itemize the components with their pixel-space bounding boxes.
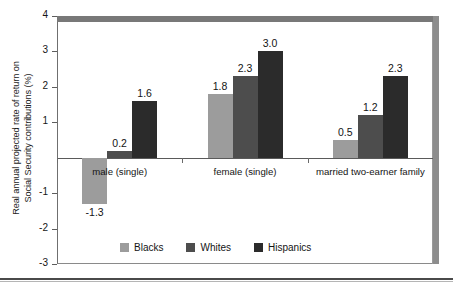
y-tick-mark — [52, 51, 57, 52]
y-axis-tick-4: 4 — [0, 16, 57, 17]
category-separator-tick — [308, 158, 309, 163]
bar-blacks-0 — [82, 158, 107, 204]
bar-value-label: 3.0 — [250, 37, 291, 49]
bar-value-label: 1.6 — [124, 87, 165, 99]
y-axis-tick--3: -3 — [0, 264, 57, 265]
plot-frame-right-edge — [432, 22, 433, 264]
zero-baseline — [57, 158, 433, 159]
bar-whites-0 — [107, 151, 132, 158]
y-tick-mark — [52, 264, 57, 265]
legend-label: Blacks — [134, 242, 163, 253]
y-axis-tick--1: -1 — [0, 193, 57, 194]
legend-item-blacks[interactable]: Blacks — [120, 242, 163, 253]
y-tick-mark — [52, 229, 57, 230]
category-separator-tick — [182, 158, 183, 163]
bar-blacks-1 — [208, 94, 233, 158]
y-axis-title-line2: Social Security contributions (%) — [22, 74, 32, 203]
y-tick-label: 2 — [42, 80, 48, 91]
legend-label: Hispanics — [268, 242, 311, 253]
plot-frame-right-band — [433, 16, 439, 264]
y-tick-mark — [52, 16, 57, 17]
page-separator-rule-shadow — [0, 281, 453, 282]
category-label-2: married two-earner family — [300, 166, 440, 177]
chart-legend: BlacksWhitesHispanics — [120, 242, 311, 253]
figure-container: Real annual projected rate of return on … — [0, 0, 453, 294]
y-tick-label: 1 — [42, 115, 48, 126]
category-label-0: male (single) — [50, 166, 190, 177]
y-tick-label: -2 — [39, 222, 48, 233]
legend-item-whites[interactable]: Whites — [186, 242, 231, 253]
legend-label: Whites — [200, 242, 231, 253]
y-tick-label: 3 — [42, 44, 48, 55]
legend-item-hispanics[interactable]: Hispanics — [254, 242, 311, 253]
legend-swatch-icon — [186, 243, 195, 252]
y-axis-tick-2: 2 — [0, 87, 57, 88]
y-tick-mark — [52, 122, 57, 123]
y-axis-tick-1: 1 — [0, 122, 57, 123]
legend-swatch-icon — [120, 243, 129, 252]
y-axis-tick--2: -2 — [0, 229, 57, 230]
y-tick-label: -3 — [39, 257, 48, 268]
y-axis-tick-3: 3 — [0, 51, 57, 52]
bar-blacks-2 — [333, 140, 358, 158]
plot-frame-top-band — [57, 16, 439, 22]
y-axis-tick-0 — [0, 158, 57, 159]
page-separator-rule — [0, 278, 453, 280]
bar-hispanics-0 — [132, 101, 157, 158]
legend-swatch-icon — [254, 243, 263, 252]
bar-value-label: 2.3 — [375, 62, 416, 74]
bar-hispanics-1 — [258, 51, 283, 157]
y-axis-title-line1: Real annual projected rate of return on — [11, 61, 21, 214]
y-tick-mark — [52, 193, 57, 194]
y-tick-mark — [52, 87, 57, 88]
bar-whites-1 — [233, 76, 258, 157]
category-separator-tick — [57, 158, 58, 163]
y-tick-label: -1 — [39, 186, 48, 197]
y-tick-label: 4 — [42, 9, 48, 20]
bar-hispanics-2 — [383, 76, 408, 157]
category-label-1: female (single) — [175, 166, 315, 177]
bar-value-label: -1.3 — [74, 206, 115, 218]
bar-whites-2 — [358, 115, 383, 158]
